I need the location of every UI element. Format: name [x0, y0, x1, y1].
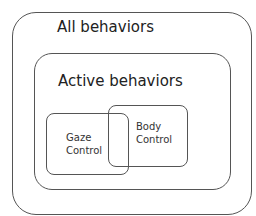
gaze-control-label: Gaze Control — [66, 131, 102, 157]
gaze-control-label-line2: Control — [66, 144, 102, 157]
all-behaviors-label: All behaviors — [57, 18, 154, 36]
body-control-label: Body Control — [136, 120, 172, 146]
gaze-control-label-line1: Gaze — [66, 131, 102, 144]
active-behaviors-label: Active behaviors — [58, 72, 183, 90]
body-control-label-line2: Control — [136, 133, 172, 146]
body-control-label-line1: Body — [136, 120, 172, 133]
